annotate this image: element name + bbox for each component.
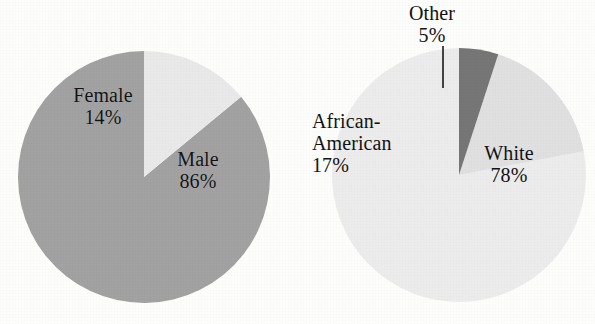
pie-label-white: White 78% xyxy=(464,142,554,187)
pie-label-male-value: 86% xyxy=(150,170,246,192)
pie-label-male-name: Male xyxy=(150,148,246,170)
pie-label-female-value: 14% xyxy=(48,106,158,128)
pie-label-other-value: 5% xyxy=(390,24,474,46)
pie-label-african-american-name-line2: American xyxy=(312,132,434,154)
pie-label-african-american: African- American 17% xyxy=(312,110,434,176)
pie-label-female: Female 14% xyxy=(48,84,158,129)
race-pie-chart: Other 5% African- American 17% White 78% xyxy=(298,0,595,324)
pie-label-white-value: 78% xyxy=(464,164,554,186)
pie-label-female-name: Female xyxy=(48,84,158,106)
pie-label-other: Other 5% xyxy=(390,2,474,47)
gender-pie-svg xyxy=(0,0,297,324)
pie-charts-figure: Female 14% Male 86% Other 5% African- Am… xyxy=(0,0,595,324)
pie-label-african-american-value: 17% xyxy=(312,154,434,176)
gender-pie-chart: Female 14% Male 86% xyxy=(0,0,297,324)
pie-label-white-name: White xyxy=(464,142,554,164)
pie-label-african-american-name-line1: African- xyxy=(312,110,434,132)
pie-label-male: Male 86% xyxy=(150,148,246,193)
pie-label-other-name: Other xyxy=(390,2,474,24)
